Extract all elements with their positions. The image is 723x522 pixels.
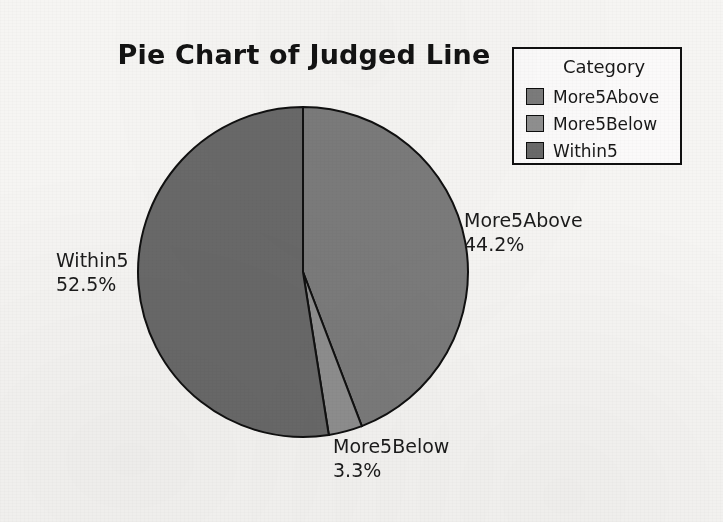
- slice-label-within5-percent: 52.5%: [56, 272, 129, 296]
- legend-item: Within5: [526, 138, 674, 163]
- slice-label-more5above: More5Above 44.2%: [464, 208, 583, 257]
- legend-item: More5Above: [526, 84, 674, 109]
- chart-legend: Category More5AboveMore5BelowWithin5: [512, 47, 682, 165]
- slice-label-within5: Within5 52.5%: [56, 248, 129, 297]
- pie-slice-within5: [138, 107, 329, 437]
- legend-item-label: Within5: [553, 141, 618, 161]
- legend-swatch-icon: [526, 88, 544, 105]
- slice-label-more5above-percent: 44.2%: [464, 232, 583, 256]
- legend-item-label: More5Below: [553, 114, 657, 134]
- legend-heading: Category: [514, 56, 680, 77]
- slice-label-more5below-percent: 3.3%: [333, 458, 449, 482]
- pie-chart-figure: Pie Chart of Judged Line More5Above 44.2…: [0, 0, 723, 522]
- legend-item-list: More5AboveMore5BelowWithin5: [526, 84, 674, 165]
- legend-item-label: More5Above: [553, 87, 659, 107]
- legend-swatch-icon: [526, 115, 544, 132]
- legend-swatch-icon: [526, 142, 544, 159]
- slice-label-more5below-name: More5Below: [333, 434, 449, 458]
- pie-slices-group: [138, 107, 468, 437]
- slice-label-more5above-name: More5Above: [464, 208, 583, 232]
- slice-label-more5below: More5Below 3.3%: [333, 434, 449, 483]
- legend-item: More5Below: [526, 111, 674, 136]
- slice-label-within5-name: Within5: [56, 248, 129, 272]
